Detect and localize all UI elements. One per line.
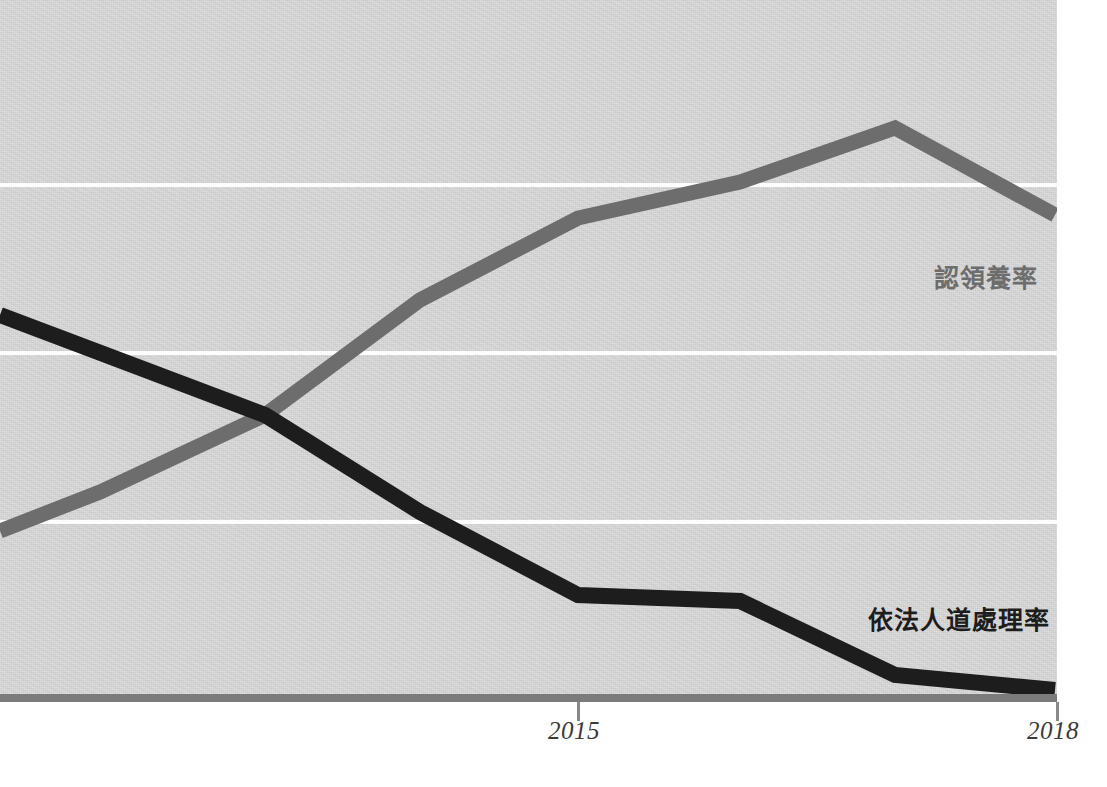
line-chart: 認領養率 依法人道處理率 2015 2018 [0,0,1107,787]
x-axis-line [0,694,1057,702]
series-lines [0,0,1057,694]
series-label-euthanasia-rate: 依法人道處理率 [868,600,1050,636]
x-axis-label-2018: 2018 [1027,717,1079,745]
x-axis-label-2015: 2015 [548,717,600,745]
plot-area: 認領養率 依法人道處理率 [0,0,1057,694]
series-line-adoption-rate [0,128,1055,531]
series-label-adoption-rate: 認領養率 [934,258,1038,294]
